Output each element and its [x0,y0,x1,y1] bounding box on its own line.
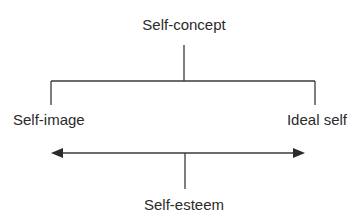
arrowhead-left-icon [51,148,63,158]
root-label: Self-concept [142,16,226,33]
self-concept-diagram: Self-concept Self-image Ideal self Self-… [0,0,362,218]
bottom-label: Self-esteem [144,196,224,213]
left-label: Self-image [13,111,85,128]
right-label: Ideal self [287,111,348,128]
arrowhead-right-icon [293,148,305,158]
